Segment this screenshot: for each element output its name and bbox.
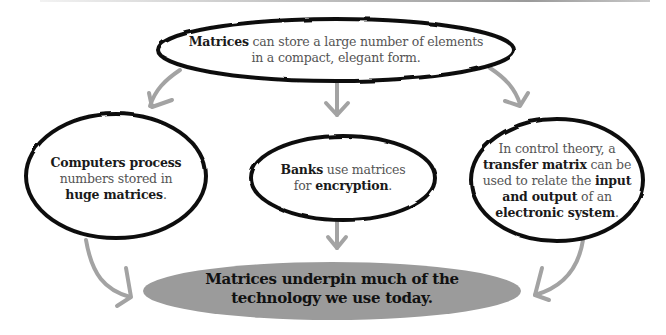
arrow-top-to-right <box>490 68 528 106</box>
top-bubble-text: Matrices can store a large number of ele… <box>180 34 492 66</box>
arrow-left-to-conclusion <box>86 240 131 306</box>
arrow-right-to-conclusion <box>535 240 583 300</box>
arrow-middle-to-conclusion <box>328 220 346 248</box>
arrow-top-to-left <box>149 70 180 107</box>
left-bubble-text: Computers process numbers stored in huge… <box>30 155 202 203</box>
middle-bubble-text: Banks use matrices for encryption. <box>258 162 428 194</box>
top-bubble-keyword: Matrices <box>189 34 249 49</box>
right-bubble-text: In control theory, a transfer matrix can… <box>478 141 636 221</box>
arrow-top-to-middle <box>326 82 348 115</box>
conclusion-text: Matrices underpin much of the technology… <box>143 270 521 308</box>
